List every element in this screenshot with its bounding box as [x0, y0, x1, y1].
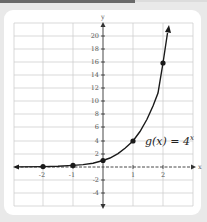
svg-text:-4: -4	[93, 189, 99, 197]
svg-text:4: 4	[95, 137, 99, 145]
svg-text:-1: -1	[69, 171, 75, 179]
svg-text:2: 2	[161, 171, 165, 179]
svg-text:-2: -2	[93, 176, 99, 184]
svg-text:2: 2	[95, 150, 99, 158]
x-tick-labels: -2 -1 1 2	[39, 171, 165, 179]
function-graph: y x 20 18 16 14 12 10 8 6 4 2 -2 -4 -2 -…	[0, 0, 207, 222]
svg-text:10: 10	[91, 97, 99, 105]
y-axis-arrow-down-icon	[101, 204, 106, 209]
point-2	[160, 60, 165, 65]
svg-text:-2: -2	[39, 171, 45, 179]
svg-text:6: 6	[95, 123, 99, 131]
point-neg1	[70, 163, 75, 168]
svg-text:8: 8	[95, 110, 99, 118]
svg-text:18: 18	[91, 45, 99, 53]
svg-text:12: 12	[91, 84, 99, 92]
curve-arrow-icon	[165, 25, 171, 33]
y-axis-label: y	[100, 13, 105, 21]
svg-text:16: 16	[91, 58, 99, 66]
point-1	[130, 138, 135, 143]
svg-text:20: 20	[91, 32, 99, 40]
y-axis	[101, 22, 106, 209]
x-axis-arrow-right-icon	[191, 165, 196, 170]
y-tick-labels: 20 18 16 14 12 10 8 6 4 2 -2 -4	[91, 32, 99, 197]
point-neg2	[40, 164, 45, 169]
x-axis-label: x	[198, 163, 202, 171]
point-0	[100, 158, 105, 163]
svg-text:1: 1	[131, 171, 135, 179]
svg-text:14: 14	[91, 71, 99, 79]
function-label: g(x) = 4x	[145, 134, 194, 148]
